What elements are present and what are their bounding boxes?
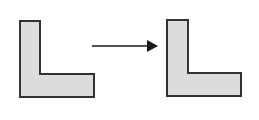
arrow-head-icon — [147, 40, 158, 52]
diagram-canvas — [0, 0, 259, 120]
target-l-shape — [167, 20, 241, 96]
source-l-shape — [20, 21, 94, 97]
